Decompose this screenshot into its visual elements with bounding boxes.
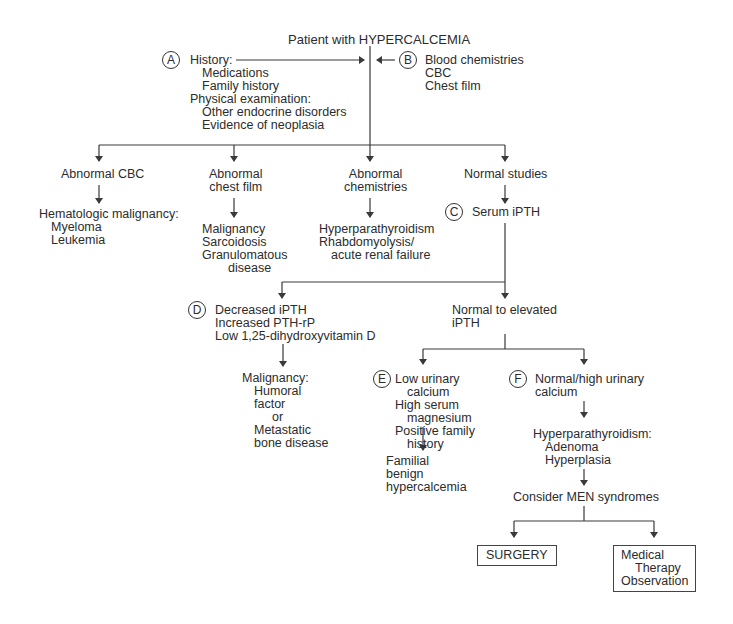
serum-ipth: Serum iPTH (472, 206, 540, 219)
hyperparathyroidism-block: Hyperparathyroidism: Adenoma Hyperplasia (533, 428, 652, 467)
marker-c: C (445, 203, 463, 221)
normal-studies: Normal studies (464, 168, 547, 181)
surgery-label: SURGERY (486, 548, 548, 562)
marker-e: E (373, 370, 391, 388)
abnormal-chem-line2: chemistries (344, 181, 407, 194)
normal-elevated-ipth: Normal to elevated iPTH (452, 304, 557, 330)
familial-block: Familial benign hypercalcemia (386, 455, 467, 494)
normal-elevated-line2: iPTH (452, 317, 557, 330)
chem-renal: acute renal failure (319, 249, 434, 262)
abnormal-chemistries: Abnormal chemistries (344, 168, 407, 194)
history-block: History: Medications Family history Phys… (190, 54, 347, 132)
chem-findings-block: Hyperparathyroidism Rhabdomyolysis/ acut… (319, 223, 434, 262)
decreased-ipth-block: Decreased iPTH Increased PTH-rP Low 1,25… (215, 304, 376, 343)
malignancy-block: Malignancy: Humoral factor or Metastatic… (242, 372, 328, 450)
low-vitamin-d: Low 1,25-dihydroxyvitamin D (215, 330, 376, 343)
chest-disease: disease (202, 262, 287, 275)
physical-neoplasia: Evidence of neoplasia (190, 119, 347, 132)
low-urinary-block: Low urinary calcium High serum magnesium… (395, 373, 475, 451)
surgery-box: SURGERY (477, 545, 557, 566)
abnormal-cbc: Abnormal CBC (61, 168, 144, 181)
consider-men: Consider MEN syndromes (513, 491, 659, 504)
test-chest: Chest film (425, 80, 524, 93)
malignancy-bone: bone disease (242, 437, 328, 450)
abnormal-chest-film: Abnormal chest film (209, 168, 263, 194)
medical-therapy-box: Medical Therapy Observation (613, 545, 696, 592)
normal-high-urinary-block: Normal/high urinary calcium (535, 373, 644, 399)
marker-a: A (162, 51, 180, 69)
observation-label: Observation (621, 575, 689, 588)
normal-high-calcium: calcium (535, 386, 644, 399)
marker-f: F (509, 370, 527, 388)
chart-title: Patient with HYPERCALCEMIA (288, 33, 470, 46)
marker-d: D (188, 301, 206, 319)
malignancy-factor: factor (242, 398, 328, 411)
heme-block: Hematologic malignancy: Myeloma Leukemia (39, 208, 179, 247)
familial-hypercalcemia: hypercalcemia (386, 481, 467, 494)
abnormal-chest-line2: chest film (209, 181, 263, 194)
positive-family-history: history (395, 438, 475, 451)
marker-b: B (399, 51, 417, 69)
chest-findings-block: Malignancy Sarcoidosis Granulomatous dis… (202, 223, 287, 275)
hpt-hyperplasia: Hyperplasia (533, 454, 652, 467)
tests-block: Blood chemistries CBC Chest film (425, 54, 524, 93)
heme-leukemia: Leukemia (39, 234, 179, 247)
hypercalcemia-flowchart: Patient with HYPERCALCEMIA A History: Me… (0, 0, 733, 624)
